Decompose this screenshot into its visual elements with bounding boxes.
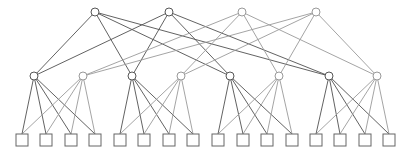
host-square-icon (286, 134, 298, 146)
pod-link (316, 76, 329, 134)
host-square-icon (163, 134, 175, 146)
core-link (242, 12, 377, 76)
aggregation-node-icon (325, 72, 333, 80)
pod-link (83, 76, 95, 134)
edge-layer (22, 12, 389, 134)
host-square-icon (89, 134, 101, 146)
core-node-icon (91, 8, 99, 16)
fat-tree-diagram (0, 0, 412, 163)
core-link (83, 12, 316, 76)
aggregation-node-icon (128, 72, 136, 80)
core-link (34, 12, 169, 76)
host-layer (16, 134, 395, 146)
pod-link (279, 76, 292, 134)
pod-link (267, 76, 279, 134)
core-node-icon (312, 8, 320, 16)
core-link (181, 12, 242, 76)
core-node-icon (165, 8, 173, 16)
host-square-icon (334, 134, 346, 146)
host-square-icon (310, 134, 322, 146)
aggregation-node-icon (226, 72, 234, 80)
aggregation-node-icon (177, 72, 185, 80)
core-link (181, 12, 316, 76)
aggregation-node-icon (373, 72, 381, 80)
pod-link (120, 76, 181, 134)
pod-link (230, 76, 243, 134)
pod-link (316, 76, 377, 134)
core-layer (91, 8, 320, 16)
host-square-icon (40, 134, 52, 146)
host-square-icon (138, 134, 150, 146)
host-square-icon (187, 134, 199, 146)
aggregation-node-icon (275, 72, 283, 80)
host-square-icon (383, 134, 395, 146)
core-node-icon (238, 8, 246, 16)
pod-link (377, 76, 389, 134)
host-square-icon (261, 134, 273, 146)
pod-link (120, 76, 132, 134)
aggregation-node-icon (79, 72, 87, 80)
host-square-icon (16, 134, 28, 146)
host-square-icon (237, 134, 249, 146)
host-square-icon (212, 134, 224, 146)
pod-link (22, 76, 83, 134)
pod-link (22, 76, 34, 134)
pod-link (218, 76, 230, 134)
core-link (34, 12, 95, 76)
host-square-icon (114, 134, 126, 146)
pod-link (181, 76, 193, 134)
aggregation-node-icon (30, 72, 38, 80)
host-square-icon (65, 134, 77, 146)
core-link (83, 12, 242, 76)
host-square-icon (359, 134, 371, 146)
aggregation-layer (30, 72, 381, 80)
core-link (316, 12, 377, 76)
